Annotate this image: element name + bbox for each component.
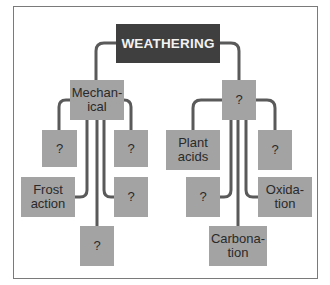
node-mechanical-unknown-3: ? [114,177,148,217]
node-mechanical-unknown-4: ? [80,226,114,266]
node-chemical-unknown-2: ? [186,177,220,217]
node-frost-action: Frost action [21,177,75,217]
node-mechanical: Mechan- ical [70,80,124,120]
node-chemical-unknown-1: ? [258,130,292,170]
node-mechanical-unknown-1: ? [42,130,77,167]
node-plant-acids: Plant acids [166,130,220,170]
node-oxidation: Oxida- tion [258,177,312,217]
root-node-weathering: WEATHERING [116,24,220,63]
node-chemical-unknown: ? [222,80,256,120]
node-carbonation: Carbona- tion [209,226,267,266]
node-mechanical-unknown-2: ? [114,130,148,167]
